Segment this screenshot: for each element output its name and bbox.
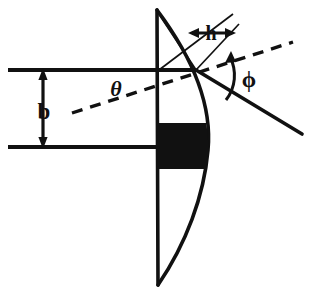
label-h: h	[205, 22, 216, 44]
opaque-block	[158, 123, 208, 169]
scattering-diagram: b θ ϕ h	[0, 0, 312, 293]
vertical-chord	[157, 10, 158, 285]
label-phi: ϕ	[242, 67, 256, 92]
figure-root: b θ ϕ h	[0, 0, 312, 293]
label-b: b	[38, 99, 51, 124]
label-theta: θ	[110, 76, 122, 101]
